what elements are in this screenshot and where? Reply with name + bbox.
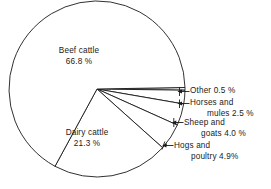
slice-label-sheep-and-goats: Sheep and goats 4.0 % xyxy=(184,118,246,139)
slice-label-sheep-and-goats-value: goats 4.0 % xyxy=(184,129,246,140)
slice-label-dairy-cattle-value: 21.3 % xyxy=(74,139,100,148)
slice-label-hogs-and-poultry-value: poultry 4.9% xyxy=(174,152,238,163)
slice-label-dairy-cattle: Dairy cattle 21.3 % xyxy=(44,128,130,149)
slice-label-beef-cattle: Beef cattle 66.8 % xyxy=(36,46,122,67)
slice-label-dairy-cattle-name: Dairy cattle xyxy=(66,128,109,137)
slice-label-horses-and-mules-name: Horses and xyxy=(190,98,233,107)
slice-label-horses-and-mules: Horses and mules 2.5 % xyxy=(190,98,254,119)
slice-label-beef-cattle-name: Beef cattle xyxy=(59,46,99,55)
slice-label-other-text: Other 0.5 % xyxy=(190,86,235,95)
slice-label-other: Other 0.5 % xyxy=(190,86,235,97)
slice-label-beef-cattle-value: 66.8 % xyxy=(66,57,92,66)
slice-label-sheep-and-goats-name: Sheep and xyxy=(184,118,225,127)
slice-label-hogs-and-poultry-name: Hogs and xyxy=(174,141,210,150)
slice-label-hogs-and-poultry: Hogs and poultry 4.9% xyxy=(174,141,238,162)
pie-chart-figure: Beef cattle 66.8 % Dairy cattle 21.3 % O… xyxy=(0,0,271,189)
